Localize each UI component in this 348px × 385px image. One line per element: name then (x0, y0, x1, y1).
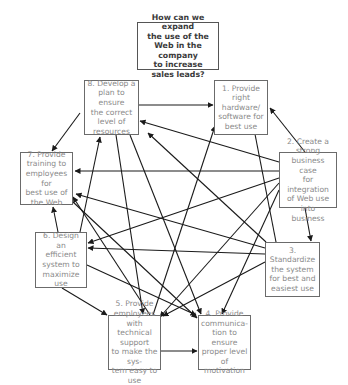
arrow-5-to-1 (153, 126, 215, 315)
node-2-business-case: 2. Create a strong business case for int… (279, 152, 337, 208)
question-box: How can we expand the use of the Web in … (137, 22, 219, 70)
node-1-label: 1. Provide right hardware/ software for … (217, 84, 265, 132)
arrow-3-to-7 (76, 194, 265, 248)
node-7-label: 7. Provide training to employees for bes… (23, 150, 70, 208)
node-8-plan-resources: 8. Develop a plan to ensure the correct … (84, 80, 139, 135)
node-6-label: 6. Design an efficient system to maximiz… (38, 231, 84, 289)
node-3-label: 3. Standardize the system for best and e… (268, 246, 317, 294)
node-5-technical-support: 5. Provide employees with technical supp… (108, 315, 161, 370)
arrow-6-to-7 (53, 207, 58, 232)
node-3-standardize: 3. Standardize the system for best and e… (265, 242, 320, 297)
arrow-2-to-6 (88, 178, 279, 243)
arrow-8-to-5 (116, 135, 143, 314)
node-4-label: 4. Provide communica- tion to ensure pro… (201, 309, 248, 376)
node-4-communication: 4. Provide communica- tion to ensure pro… (198, 315, 251, 370)
arrow-8-to-4 (130, 135, 201, 314)
node-5-label: 5. Provide employees with technical supp… (111, 299, 158, 385)
node-6-design-system: 6. Design an efficient system to maximiz… (35, 232, 87, 288)
question-text: How can we expand the use of the Web in … (140, 13, 216, 79)
arrow-2-to-5 (160, 183, 279, 317)
arrow-8-to-7 (52, 113, 80, 151)
relations-diagram: How can we expand the use of the Web in … (0, 0, 348, 385)
arrow-6-to-5 (62, 288, 107, 315)
arrow-3-to-5 (163, 262, 265, 316)
node-8-label: 8. Develop a plan to ensure the correct … (87, 79, 136, 137)
node-1-hardware-software: 1. Provide right hardware/ software for … (214, 80, 268, 135)
node-7-training: 7. Provide training to employees for bes… (20, 152, 73, 205)
node-2-label: 2. Create a strong business case for int… (282, 137, 334, 223)
